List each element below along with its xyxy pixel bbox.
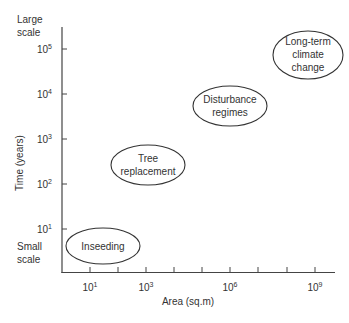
- x-tick-labels: 101 103 106 109: [82, 281, 322, 293]
- svg-text:change: change: [292, 62, 325, 73]
- svg-text:replacement: replacement: [120, 166, 175, 177]
- svg-text:Long-term: Long-term: [285, 36, 331, 47]
- x-tick-1e3: 103: [138, 281, 153, 293]
- x-tick-1e9: 109: [307, 281, 322, 293]
- svg-text:Inseeding: Inseeding: [81, 241, 124, 252]
- x-tick-1e1: 101: [82, 281, 97, 293]
- y-tick-1e1: 101: [37, 223, 52, 235]
- y-axis-title: Time (years): [14, 135, 25, 191]
- node-long-term-climate-change: Long-term climate change: [273, 31, 343, 79]
- x-axis-ticks: [90, 267, 315, 272]
- svg-text:Small: Small: [17, 241, 42, 252]
- node-tree-replacement: Tree replacement: [111, 145, 185, 185]
- y-tick-1e2: 102: [37, 178, 52, 190]
- small-scale-label: Small scale: [17, 241, 42, 265]
- x-axis-title: Area (sq.m): [162, 296, 214, 307]
- y-tick-1e4: 104: [37, 88, 52, 100]
- svg-text:scale: scale: [17, 27, 41, 38]
- large-scale-label: Large scale: [17, 14, 43, 38]
- y-tick-1e5: 105: [37, 43, 52, 55]
- node-inseeding: Inseeding: [66, 228, 140, 264]
- svg-text:climate: climate: [292, 49, 324, 60]
- svg-text:Disturbance: Disturbance: [203, 94, 257, 105]
- y-tick-1e3: 103: [37, 133, 52, 145]
- x-tick-1e6: 106: [222, 281, 237, 293]
- y-axis-ticks: [62, 49, 67, 229]
- svg-text:scale: scale: [17, 254, 41, 265]
- svg-text:Large: Large: [17, 14, 43, 25]
- svg-text:regimes: regimes: [212, 107, 248, 118]
- svg-text:Tree: Tree: [138, 153, 159, 164]
- node-disturbance-regimes: Disturbance regimes: [193, 86, 267, 126]
- y-tick-labels: 105 104 103 102 101: [37, 43, 52, 235]
- scale-diagram: 105 104 103 102 101 101 103 106 109 Area…: [0, 0, 349, 323]
